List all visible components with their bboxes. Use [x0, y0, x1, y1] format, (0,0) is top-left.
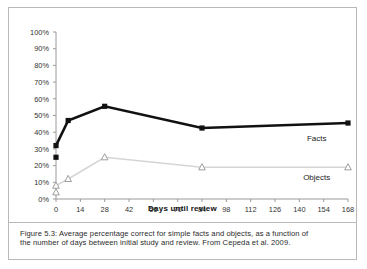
y-tick-label: 90%	[34, 44, 49, 53]
y-tick-label: 0%	[38, 195, 49, 204]
caption-line-2: the number of days between initial study…	[20, 238, 346, 247]
y-tick-label: 70%	[34, 78, 49, 87]
figure-caption: Figure 5.3: Average percentage correct f…	[9, 223, 356, 259]
chart-region: 0%10%20%30%40%50%60%70%80%90%100% 014284…	[9, 8, 356, 222]
data-point-facts	[199, 125, 204, 130]
y-tick-label: 40%	[34, 128, 49, 137]
line-chart: 0%10%20%30%40%50%60%70%80%90%100% 014284…	[9, 8, 356, 222]
data-point-objects	[53, 189, 60, 195]
data-point-facts	[53, 155, 58, 160]
data-point-facts	[53, 143, 58, 148]
y-tick-label: 30%	[34, 145, 49, 154]
figure-frame: 0%10%20%30%40%50%60%70%80%90%100% 014284…	[8, 7, 357, 260]
series-label-facts: Facts	[307, 134, 327, 143]
data-point-facts	[66, 118, 71, 123]
data-point-facts	[345, 120, 350, 125]
series-inline-labels: FactsObjects	[303, 134, 330, 181]
y-tick-label: 80%	[34, 61, 49, 70]
series-label-objects: Objects	[303, 173, 330, 182]
y-tick-label: 10%	[34, 178, 49, 187]
y-tick-label: 60%	[34, 95, 49, 104]
caption-line-1: Figure 5.3: Average percentage correct f…	[20, 229, 346, 238]
data-point-facts	[102, 104, 107, 109]
x-axis-title: Days until review	[9, 204, 356, 213]
y-tick-label: 20%	[34, 161, 49, 170]
y-tick-label: 50%	[34, 111, 49, 120]
y-tick-label: 100%	[30, 28, 49, 37]
y-axis-tick-labels: 0%10%20%30%40%50%60%70%80%90%100%	[30, 28, 49, 204]
